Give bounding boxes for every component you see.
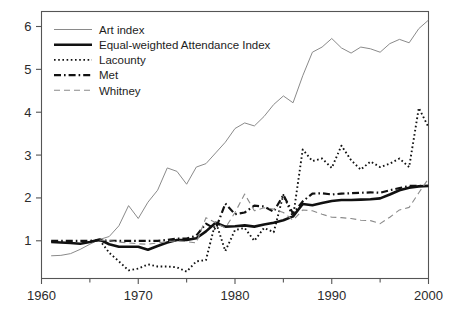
chart-canvas: 19601970198019902000 123456 Art indexEqu…	[0, 0, 451, 321]
x-tick-label: 1980	[221, 288, 250, 303]
y-tick-label: 6	[24, 19, 31, 34]
y-tick-label: 1	[24, 233, 31, 248]
legend-label: Met	[99, 69, 119, 81]
x-tick-label: 1960	[27, 288, 56, 303]
legend-label: Equal-weighted Attendance Index	[99, 39, 271, 51]
legend-label: Art index	[99, 24, 145, 36]
x-tick-label: 2000	[414, 288, 443, 303]
y-tick-label: 5	[24, 62, 31, 77]
y-tick-label: 2	[24, 190, 31, 205]
y-tick-label: 3	[24, 148, 31, 163]
legend-label: Whitney	[99, 85, 141, 97]
line-chart-figure: 19601970198019902000 123456 Art indexEqu…	[0, 0, 451, 321]
x-tick-label: 1970	[124, 288, 153, 303]
x-tick-label: 1990	[317, 288, 346, 303]
legend-label: Lacounty	[99, 54, 146, 66]
y-tick-label: 4	[24, 105, 31, 120]
